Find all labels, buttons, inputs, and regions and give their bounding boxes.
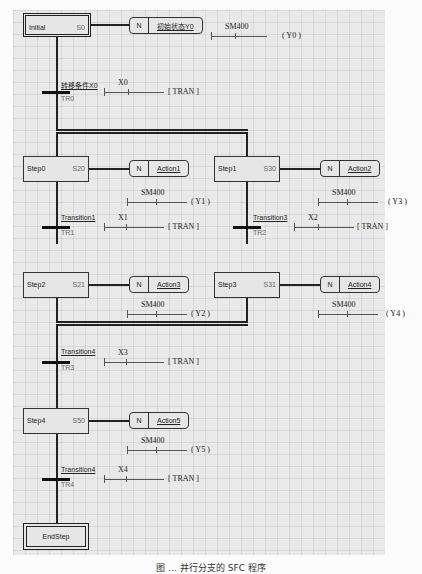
- coil-y1: ( Y1 ): [191, 197, 210, 206]
- action-connector: [89, 168, 129, 170]
- action-label: 初始状态Y0: [149, 18, 202, 33]
- transition-label: 转移条件X0: [61, 80, 98, 90]
- link: [246, 298, 248, 322]
- tran-target: [ TRAN ]: [357, 222, 388, 231]
- tran-target: [ TRAN ]: [168, 87, 199, 96]
- initial-action[interactable]: N 初始状态Y0: [129, 17, 203, 34]
- action-action4[interactable]: NAction4: [320, 276, 380, 293]
- step-step3[interactable]: Step3S31: [214, 272, 280, 298]
- coil-y3: ( Y3 ): [388, 197, 407, 206]
- contact-sm400-y3: SM400: [318, 198, 378, 206]
- action-qualifier: N: [130, 18, 149, 33]
- transition-bar-tr0[interactable]: [42, 91, 70, 94]
- action-action5[interactable]: NAction5: [129, 412, 189, 429]
- branch-left-link: [56, 134, 58, 156]
- action-action2[interactable]: NAction2: [320, 160, 380, 177]
- end-step[interactable]: EndStep: [23, 523, 89, 550]
- transition-id: TR3: [61, 364, 74, 371]
- tran-target: [ TRAN ]: [168, 222, 199, 231]
- figure-caption: 图 … 并行分支的 SFC 程序: [0, 561, 422, 574]
- action-connector: [280, 168, 320, 170]
- contact-sm400-y0: SM400: [211, 32, 267, 40]
- transition-id: TR0: [61, 95, 74, 102]
- branch-right-link: [246, 134, 248, 156]
- transition-label: Transition4: [61, 348, 95, 355]
- action-action3[interactable]: NAction3: [129, 276, 189, 293]
- step-step0[interactable]: Step0S20: [23, 156, 89, 182]
- step-step2[interactable]: Step2S21: [23, 272, 89, 298]
- action-connector: [280, 284, 320, 286]
- step-name: Initial: [29, 24, 45, 31]
- contact-x3: X3: [104, 358, 164, 366]
- link: [246, 182, 248, 244]
- link: [56, 182, 58, 244]
- end-step-label: EndStep: [43, 533, 70, 540]
- step-step4[interactable]: Step4S50: [23, 408, 89, 434]
- tran-target: [ TRAN ]: [168, 474, 199, 483]
- link: [56, 326, 58, 408]
- coil-y2: ( Y2 ): [191, 309, 210, 318]
- contact-sm400-y4: SM400: [318, 310, 378, 318]
- transition-id: TR4: [61, 481, 74, 488]
- parallel-convergence: [56, 321, 248, 326]
- action-action1[interactable]: NAction1: [129, 160, 189, 177]
- transition-label: Transition1: [61, 214, 95, 221]
- contact-x2: X2: [294, 223, 354, 231]
- action-connector: [89, 420, 129, 422]
- initial-step[interactable]: Initial S0: [23, 13, 91, 37]
- contact-x4: X4: [104, 475, 164, 483]
- contact-sm400-y1: SM400: [127, 198, 187, 206]
- parallel-divergence: [56, 129, 248, 134]
- contact-sm400-y5: SM400: [127, 446, 187, 454]
- contact-x0: X0: [104, 88, 164, 96]
- contact-sm400-y2: SM400: [127, 310, 187, 318]
- step-step1[interactable]: Step1S30: [214, 156, 280, 182]
- transition-id: TR1: [61, 229, 74, 236]
- transition-id: TR2: [253, 229, 266, 236]
- link-s0-tr0: [56, 37, 58, 130]
- link: [56, 298, 58, 322]
- contact-x1: X1: [104, 223, 164, 231]
- coil-y4: ( Y4 ): [386, 309, 405, 318]
- transition-label: Transition4: [61, 466, 95, 473]
- coil-y5: ( Y5 ): [191, 445, 210, 454]
- step-id: S0: [76, 24, 85, 31]
- transition-label: Transition3: [253, 214, 287, 221]
- action-connector: [89, 284, 129, 286]
- coil-y0: ( Y0 ): [282, 31, 301, 40]
- tran-target: [ TRAN ]: [168, 357, 199, 366]
- action-connector: [91, 24, 129, 26]
